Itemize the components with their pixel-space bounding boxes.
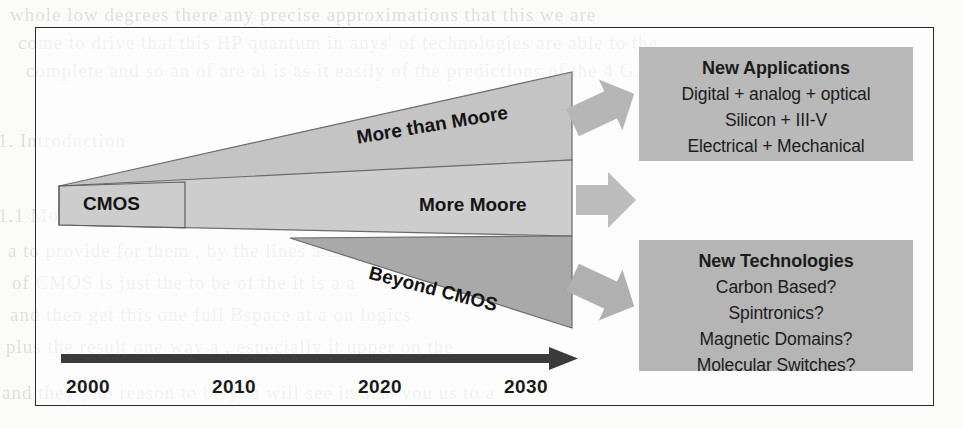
wedge-label-cmos: CMOS — [83, 193, 140, 215]
box-line: Carbon Based? — [639, 274, 913, 300]
connector-arrow-middle — [576, 172, 636, 228]
scanned-figure-page: whole low degrees there any precise appr… — [0, 0, 963, 428]
box-line: Spintronics? — [639, 300, 913, 326]
timeline-year-2020: 2020 — [358, 376, 402, 398]
timeline-year-2030: 2030 — [504, 376, 548, 398]
box-line: Electrical + Mechanical — [639, 133, 913, 159]
timeline-year-2000: 2000 — [66, 376, 110, 398]
box-line: Silicon + III-V — [639, 107, 913, 133]
callout-box-new-applications: New Applications Digital + analog + opti… — [639, 47, 913, 161]
box-line: Magnetic Domains? — [639, 326, 913, 352]
timeline-year-2010: 2010 — [212, 376, 256, 398]
connector-arrow-bottom — [561, 252, 646, 331]
wedge-label-more-moore: More Moore — [419, 194, 527, 216]
box-line: Molecular Switches? — [639, 352, 913, 378]
callout-box-new-technologies: New Technologies Carbon Based? Spintroni… — [639, 240, 913, 371]
timeline-arrow — [61, 347, 578, 370]
connector-arrow-top — [561, 68, 646, 147]
box-title-new-technologies: New Technologies — [639, 248, 913, 274]
box-title-new-applications: New Applications — [639, 55, 913, 81]
box-line: Digital + analog + optical — [639, 81, 913, 107]
